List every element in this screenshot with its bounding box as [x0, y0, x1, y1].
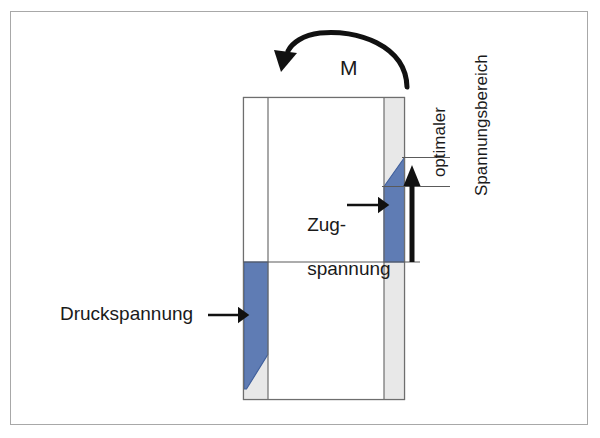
tension-stress-label-line1: Zug- — [307, 214, 346, 235]
optimal-range-label-line1: optimaler — [430, 107, 449, 177]
tension-stress-label: Zug- spannung — [286, 192, 391, 302]
column-left-flange-upper-white — [244, 98, 268, 262]
optimal-range-label: optimaler Spannungsbereich — [408, 26, 534, 196]
optimal-range-label-line2: Spannungsbereich — [471, 26, 492, 196]
moment-arrow-head — [274, 50, 297, 72]
stress-distribution-figure: M Zug- spannung Druckspannung optimaler … — [0, 0, 600, 438]
compression-stress-label: Druckspannung — [60, 303, 193, 325]
tension-stress-label-line2: spannung — [307, 258, 390, 279]
moment-label: M — [340, 56, 358, 80]
